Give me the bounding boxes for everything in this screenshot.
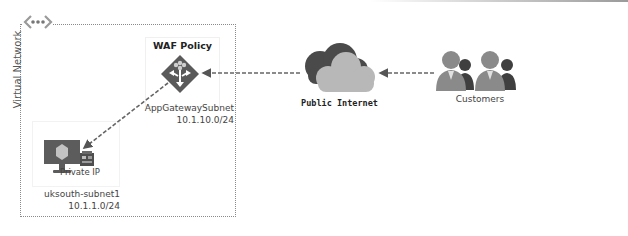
waf-to-private-ip-arrow — [84, 83, 168, 148]
